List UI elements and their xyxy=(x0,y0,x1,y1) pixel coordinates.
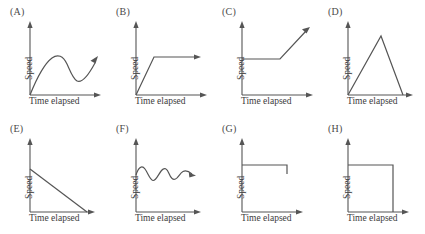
panel-e: (E) Time elapsed Speed xyxy=(0,117,106,234)
y-axis-arrowhead xyxy=(239,21,244,28)
panel-h-x-label: Time elapsed xyxy=(347,213,398,223)
panel-h: (H) Time elapsed Speed xyxy=(318,117,424,234)
multiple-choice-graph-figure: (A) Time elapsed Speed (B) Time el xyxy=(0,0,425,234)
panel-a: (A) Time elapsed Speed xyxy=(0,0,106,117)
x-axis-arrowhead xyxy=(88,209,95,214)
panel-b: (B) Time elapsed Speed xyxy=(106,0,212,117)
y-axis-arrowhead xyxy=(239,138,244,145)
panel-c-y-label: Speed xyxy=(236,57,246,80)
x-axis-arrowhead xyxy=(306,92,313,97)
panel-f-y-label: Speed xyxy=(130,176,140,199)
panel-a-y-label: Speed xyxy=(24,57,34,80)
panel-h-curve xyxy=(348,165,393,212)
panel-g-x-label: Time elapsed xyxy=(241,213,292,223)
panel-b-y-label: Speed xyxy=(130,57,140,80)
x-axis-arrowhead xyxy=(296,209,303,214)
panel-e-curve xyxy=(30,169,87,212)
panel-d-y-label: Speed xyxy=(342,57,352,80)
panel-f: (F) Time elapsed Speed xyxy=(106,117,212,234)
panel-g-y-label: Speed xyxy=(236,176,246,199)
x-axis-arrowhead xyxy=(194,209,201,214)
x-axis-arrowhead xyxy=(94,92,101,97)
panel-g: (G) Time elapsed Speed xyxy=(212,117,318,234)
y-axis-arrowhead xyxy=(345,21,350,28)
y-axis-arrowhead xyxy=(133,138,138,145)
y-axis-arrowhead xyxy=(27,21,32,28)
y-axis-arrowhead xyxy=(133,21,138,28)
panel-c-curve xyxy=(242,31,306,59)
panel-a-curve xyxy=(30,56,95,95)
panel-a-x-label: Time elapsed xyxy=(29,96,80,106)
panel-f-x-label: Time elapsed xyxy=(135,213,186,223)
panel-c-x-label: Time elapsed xyxy=(241,96,292,106)
panel-d: (D) Time elapsed Speed xyxy=(318,0,424,117)
panel-e-y-label: Speed xyxy=(24,176,34,199)
panel-f-curve-arrowhead xyxy=(189,172,196,177)
y-axis-arrowhead xyxy=(27,138,32,145)
x-axis-arrowhead xyxy=(200,92,207,97)
panel-d-x-label: Time elapsed xyxy=(347,96,398,106)
panel-e-x-label: Time elapsed xyxy=(29,213,80,223)
panel-c-curve-arrowhead xyxy=(302,27,310,34)
panel-b-x-label: Time elapsed xyxy=(135,96,186,106)
panel-a-curve-arrowhead xyxy=(91,56,99,63)
panel-f-curve xyxy=(136,167,192,181)
panel-b-curve xyxy=(136,57,197,95)
panel-b-curve-arrowhead xyxy=(194,54,201,59)
y-axis-arrowhead xyxy=(345,138,350,145)
x-axis-arrowhead xyxy=(402,209,409,214)
panel-c: (C) Time elapsed Speed xyxy=(212,0,318,117)
panel-g-curve xyxy=(242,165,287,174)
panel-h-y-label: Speed xyxy=(342,176,352,199)
x-axis-arrowhead xyxy=(406,92,413,97)
panel-d-curve xyxy=(348,36,403,95)
